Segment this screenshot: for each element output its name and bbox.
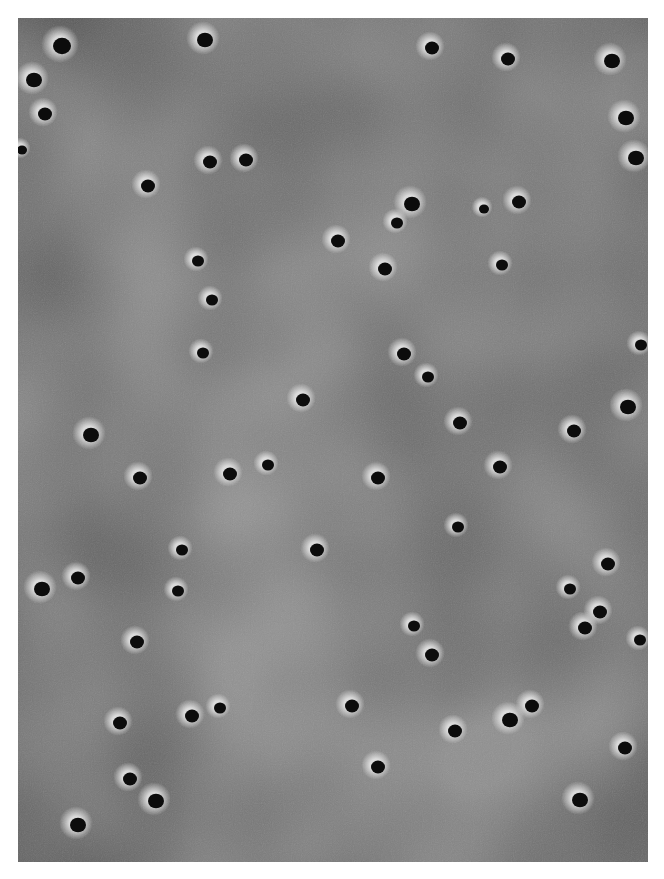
- pore: [635, 339, 647, 350]
- pore: [525, 700, 539, 713]
- pore: [130, 636, 144, 649]
- pore: [71, 572, 85, 585]
- pore: [512, 196, 526, 209]
- membrane-micrograph: [18, 18, 648, 862]
- pore: [34, 582, 50, 597]
- pore: [452, 521, 464, 532]
- pore: [185, 710, 199, 723]
- pore: [331, 235, 345, 248]
- pore: [26, 73, 42, 88]
- pore: [422, 371, 434, 382]
- pore: [123, 773, 137, 786]
- pore: [113, 717, 127, 730]
- pore: [618, 742, 632, 755]
- pore: [604, 54, 620, 69]
- pore: [197, 347, 209, 358]
- pore: [176, 544, 188, 555]
- pore: [223, 468, 237, 481]
- pore: [239, 154, 253, 167]
- pore: [133, 472, 147, 485]
- pore: [634, 634, 646, 645]
- pore: [425, 649, 439, 662]
- pore: [141, 180, 155, 193]
- pore: [593, 606, 607, 619]
- pore: [567, 425, 581, 438]
- pore: [572, 793, 588, 808]
- pore: [404, 197, 420, 212]
- pore: [192, 255, 204, 266]
- pore: [53, 38, 71, 55]
- pore: [371, 472, 385, 485]
- pore: [453, 417, 467, 430]
- pore: [345, 700, 359, 713]
- pore: [371, 761, 385, 774]
- pore: [502, 713, 518, 728]
- pore: [501, 53, 515, 66]
- pore: [408, 620, 420, 631]
- pore: [296, 394, 310, 407]
- pore: [206, 294, 218, 305]
- pore: [618, 111, 634, 126]
- pore: [425, 42, 439, 55]
- pore: [214, 702, 226, 713]
- pore: [564, 583, 576, 594]
- pore: [397, 348, 411, 361]
- pore: [448, 725, 462, 738]
- pore: [38, 108, 52, 121]
- pore: [310, 544, 324, 557]
- pore: [197, 33, 213, 48]
- pore: [628, 151, 644, 166]
- pore: [620, 400, 636, 415]
- pore: [148, 794, 164, 809]
- pore: [496, 259, 508, 270]
- pore: [203, 156, 217, 169]
- pore: [479, 204, 489, 213]
- pore: [83, 428, 99, 443]
- pore: [70, 818, 86, 833]
- micrograph-image: [18, 18, 648, 862]
- pore: [493, 461, 507, 474]
- pore: [391, 217, 403, 228]
- pore: [578, 622, 592, 635]
- pore: [601, 558, 615, 571]
- pore: [172, 585, 184, 596]
- grain-texture: [18, 18, 648, 862]
- pore: [378, 263, 392, 276]
- pore: [262, 459, 274, 470]
